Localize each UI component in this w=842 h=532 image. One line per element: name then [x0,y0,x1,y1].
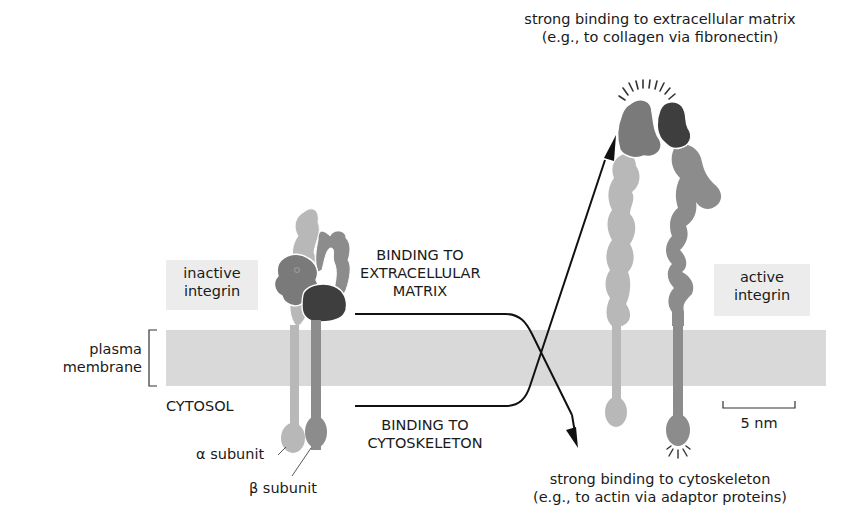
binding-ecm-label: BINDING TO EXTRACELLULAR MATRIX [360,246,480,300]
ecm-binding-rays [619,80,675,100]
active-integrin-label: active integrin [714,268,810,304]
active-integrin [605,80,721,458]
arrowhead-up [604,135,616,161]
active-alpha-head [618,100,661,158]
inactive-integrin-label: inactive integrin [166,264,258,300]
active-beta-head [657,102,691,149]
alpha-leader-line [278,447,286,455]
beta-subunit-label: β subunit [249,479,317,497]
bottom-caption: strong binding to cytoskeleton (e.g., to… [500,470,820,506]
top-caption: strong binding to extracellular matrix (… [500,10,820,46]
inactive-beta-head [302,284,347,322]
arrowhead-down [566,427,578,448]
active-beta-extracellular [666,144,721,326]
membrane-bracket [149,330,157,386]
cytosol-label: CYTOSOL [166,397,234,415]
binding-cytoskeleton-label: BINDING TO CYTOSKELETON [360,416,490,452]
plasma-membrane-label: plasma membrane [50,340,142,376]
alpha-subunit-label: α subunit [196,445,264,463]
plasma-membrane-band [166,330,826,386]
active-beta-foot [666,414,690,446]
inactive-beta-foot [305,416,327,448]
active-alpha-extracellular [606,153,640,326]
scale-bar-label: 5 nm [722,414,796,432]
active-beta-stalk [673,325,683,423]
cytoskeleton-binding-rays [667,446,690,458]
active-alpha-foot [605,397,627,427]
scale-bar [723,401,795,408]
